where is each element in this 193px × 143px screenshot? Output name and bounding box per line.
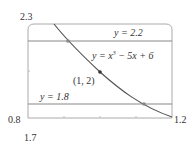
y-min-label: 1.7 <box>24 132 37 143</box>
point-1-2 <box>98 70 102 74</box>
intersection-lower <box>142 102 146 106</box>
label-curve-equation: y = x3 − 5x + 6 <box>91 50 154 61</box>
x-max-label: 1.2 <box>174 114 187 125</box>
chart: 2.3 1.7 0.8 1.2 y = 2.2 y = x3 − 5x + 6 … <box>0 0 193 143</box>
label-line-upper: y = 2.2 <box>113 27 143 38</box>
label-line-lower: y = 1.8 <box>39 91 69 102</box>
curve <box>54 24 172 117</box>
y-max-label: 2.3 <box>20 11 33 22</box>
intersection-upper <box>66 39 70 43</box>
curve-eq-prefix: y = x <box>91 50 113 61</box>
curve-eq-suffix: − 5x + 6 <box>116 50 154 61</box>
x-min-label: 0.8 <box>8 114 21 125</box>
label-point: (1, 2) <box>73 75 95 87</box>
